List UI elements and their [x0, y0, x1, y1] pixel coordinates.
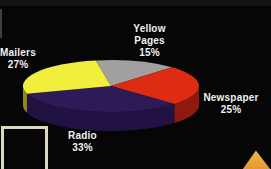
slide-background: Yellow Pages 15% Mailers 27% Newspaper 2… [0, 0, 271, 169]
pie-label-yellow-pages-name: Yellow Pages [117, 23, 182, 47]
pie-label-newspaper-pct: 25% [203, 104, 259, 116]
pie-label-mailers: Mailers 27% [0, 47, 36, 71]
pie-label-mailers-name: Mailers [0, 47, 36, 59]
slide-frame-corner [1, 126, 48, 169]
pie-label-radio: Radio 33% [62, 130, 103, 154]
pie-label-yellow-pages-pct: 15% [117, 47, 182, 59]
pie-label-mailers-pct: 27% [0, 59, 36, 71]
pie-label-radio-name: Radio [62, 130, 103, 142]
pie-label-radio-pct: 33% [62, 142, 103, 154]
pie-label-yellow-pages: Yellow Pages 15% [117, 23, 182, 59]
pie-label-newspaper: Newspaper 25% [203, 92, 259, 116]
pie-label-newspaper-name: Newspaper [203, 92, 259, 104]
